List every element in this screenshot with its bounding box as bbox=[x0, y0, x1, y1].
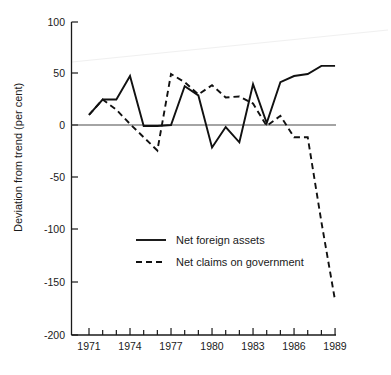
deviation-from-trend-line-chart: Deviation from trend (per cent) 100 50 0… bbox=[0, 0, 391, 375]
x-tick-label-1977: 1977 bbox=[159, 340, 183, 352]
y-axis-ticks: 100 50 0 -50 -100 -150 -200 bbox=[44, 16, 78, 341]
y-tick-label-0: 0 bbox=[59, 119, 65, 131]
y-axis-label: Deviation from trend (per cent) bbox=[12, 83, 24, 232]
y-tick-label-neg100: -100 bbox=[44, 223, 65, 235]
x-tick-label-1986: 1986 bbox=[282, 340, 306, 352]
y-tick-label-neg150: -150 bbox=[44, 276, 65, 288]
x-tick-label-1983: 1983 bbox=[241, 340, 265, 352]
x-tick-label-1971: 1971 bbox=[77, 340, 101, 352]
x-axis-tick-labels: 1971 1974 1977 1980 1983 1986 1989 bbox=[77, 340, 347, 352]
y-tick-label-100: 100 bbox=[47, 16, 65, 28]
legend-label-net-foreign-assets: Net foreign assets bbox=[176, 234, 265, 246]
chart-legend: Net foreign assets Net claims on governm… bbox=[136, 234, 304, 268]
y-tick-label-50: 50 bbox=[53, 67, 65, 79]
y-tick-label-neg200: -200 bbox=[44, 329, 65, 341]
scan-artifact bbox=[72, 30, 388, 62]
x-tick-label-1980: 1980 bbox=[200, 340, 224, 352]
legend-label-net-claims-on-government: Net claims on government bbox=[176, 256, 304, 268]
chart-figure: Deviation from trend (per cent) 100 50 0… bbox=[0, 0, 391, 375]
series-net-foreign-assets bbox=[89, 66, 335, 148]
x-axis-ticks bbox=[89, 328, 335, 335]
x-tick-label-1974: 1974 bbox=[118, 340, 142, 352]
y-tick-label-neg50: -50 bbox=[50, 171, 65, 183]
x-tick-label-1989: 1989 bbox=[323, 340, 347, 352]
